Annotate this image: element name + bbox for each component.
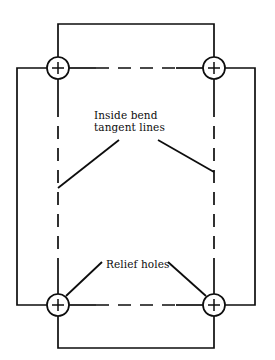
hole-center-marks — [52, 62, 220, 311]
annotation-bend-tangent-line2: tangent lines — [94, 122, 165, 134]
leader-bend-tangent-left — [58, 140, 119, 188]
technical-drawing-canvas — [0, 0, 275, 360]
web-right-edge — [225, 68, 255, 305]
leader-relief-hole-left — [66, 262, 102, 296]
figure-relief-holes: Inside bend tangent lines Relief holes — [0, 0, 275, 360]
annotation-bend-tangent-line1: Inside bend — [94, 109, 157, 121]
center-mark-top-right-icon — [208, 62, 220, 74]
web-left-edge — [17, 68, 47, 305]
part-outline — [17, 24, 255, 348]
center-mark-bottom-left-icon — [52, 299, 64, 311]
center-mark-top-left-icon — [52, 62, 64, 74]
top-flange-outline — [58, 24, 214, 57]
leader-lines — [58, 140, 214, 296]
center-mark-bottom-right-icon — [208, 299, 220, 311]
leader-relief-hole-right — [168, 262, 206, 296]
annotation-relief-holes: Relief holes — [106, 259, 170, 271]
leader-bend-tangent-right — [158, 140, 214, 172]
bottom-flange-outline — [58, 316, 214, 348]
annotation-inside-bend-tangent-lines: Inside bend tangent lines — [94, 110, 165, 134]
